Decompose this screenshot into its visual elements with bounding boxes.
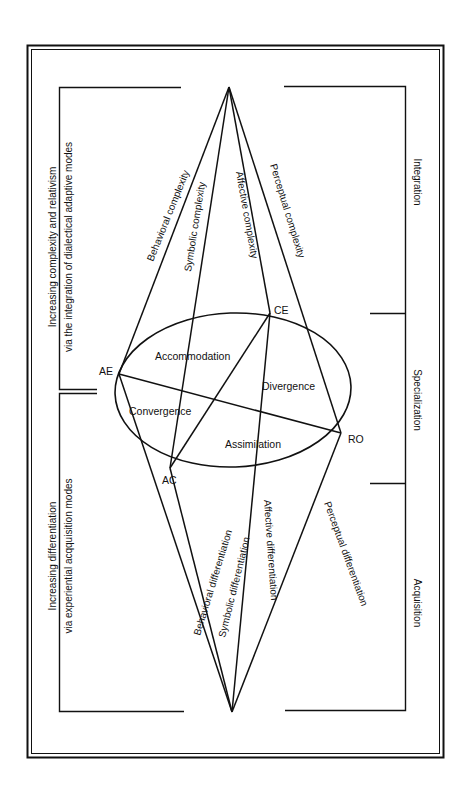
- label-integration-of-dialectical-modes: via the integration of dialectical adapt…: [63, 142, 74, 352]
- pole-label-ae: AE: [99, 365, 113, 377]
- label-perceptual-complexity: Perceptual complexity: [268, 162, 307, 259]
- label-increasing-complexity: Increasing complexity and relativism: [47, 167, 58, 328]
- label-acquisition: Acquisition: [412, 579, 423, 627]
- learning-development-diagram: AE CE RO AC Accommodation Divergence Con…: [0, 0, 469, 796]
- pole-label-ro: RO: [348, 433, 364, 445]
- label-increasing-differentiation: Increasing differentiation: [47, 502, 58, 611]
- left-bracket-bottom: [60, 394, 185, 712]
- label-symbolic-complexity: Symbolic complexity: [182, 181, 207, 272]
- label-affective-differentiation: Affective differentiation: [262, 499, 280, 600]
- label-perceptual-differentiation: Perceptual differentiation: [322, 500, 370, 608]
- quadrant-label-divergence: Divergence: [262, 380, 315, 392]
- lower-cone-lines: [119, 313, 341, 712]
- outer-frame: [28, 46, 444, 758]
- quadrant-label-convergence: Convergence: [129, 405, 192, 417]
- quadrant-label-accommodation: Accommodation: [155, 350, 230, 362]
- label-integration: Integration: [412, 158, 423, 205]
- right-bracket: [284, 87, 406, 711]
- pole-label-ce: CE: [274, 304, 289, 316]
- pole-label-ac: AC: [162, 474, 177, 486]
- label-behavioral-complexity: Behavioral complexity: [145, 168, 192, 262]
- quadrant-label-assimilation: Assimilation: [225, 438, 281, 450]
- label-affective-complexity: Affective complexity: [234, 170, 260, 259]
- label-specialization: Specialization: [412, 369, 423, 431]
- label-experiential-acquisition-modes: via experiential acqquisition modes: [63, 478, 74, 633]
